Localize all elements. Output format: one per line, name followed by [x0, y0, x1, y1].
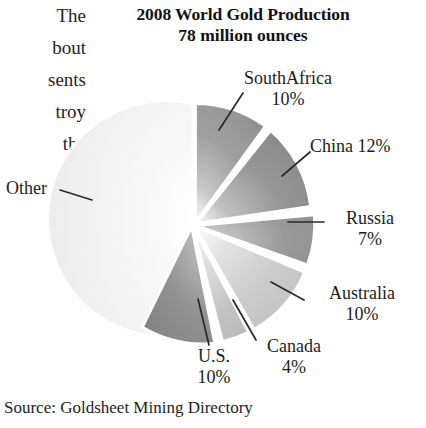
pie-label-southafrica-name: SouthAfrica [244, 68, 332, 88]
pie-label-us-name: U.S. [198, 346, 230, 366]
source-line: Source: Goldsheet Mining Directory [4, 398, 253, 418]
pie-label-russia-percent: 7% [332, 229, 408, 250]
pie-label-australia-percent: 10% [306, 304, 418, 325]
pie-label-us-percent: 10% [178, 367, 250, 388]
pie-label-canada-name: Canada [267, 336, 321, 356]
pie-label-canada-percent: 4% [249, 357, 339, 378]
pie-label-other: Other [6, 178, 47, 199]
pie-label-russia-name: Russia [346, 208, 394, 228]
pie-label-australia-name: Australia [329, 283, 395, 303]
pie-label-china: China 12% [310, 136, 391, 157]
pie-label-other-name: Other [6, 178, 47, 198]
pie-label-china-name: China 12% [310, 136, 391, 156]
pie-label-australia: Australia 10% [306, 283, 418, 325]
pie-label-canada: Canada 4% [249, 336, 339, 378]
pie-label-southafrica: SouthAfrica 10% [228, 68, 348, 110]
pie-label-us: U.S. 10% [178, 346, 250, 388]
pie-label-russia: Russia 7% [332, 208, 408, 250]
pie-label-southafrica-percent: 10% [228, 89, 348, 110]
